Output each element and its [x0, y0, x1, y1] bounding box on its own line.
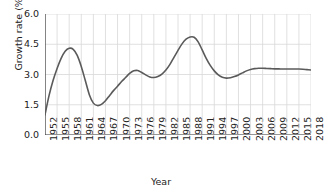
- plot-area: [45, 14, 311, 135]
- x-axis-tick-label: 2018: [315, 117, 325, 141]
- chart-canvas: [45, 14, 311, 135]
